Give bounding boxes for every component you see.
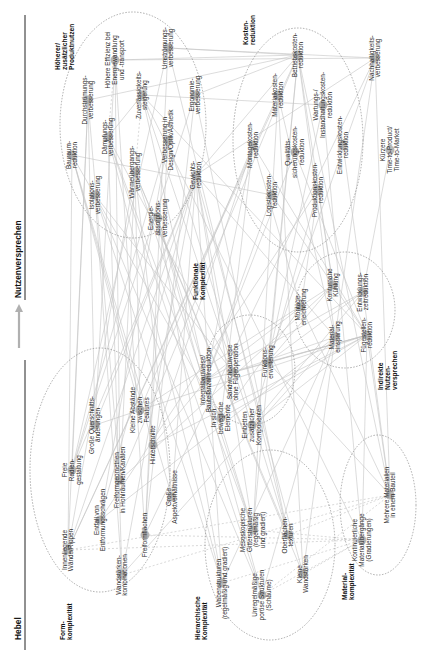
node-materialeinsparung[interactable]: Material-einsparung — [328, 321, 343, 353]
cluster-label-produktnutzen: Höherer/zusätzlicherProduktnutzen — [54, 24, 75, 70]
node-label: InnenliegendeWände/Rippen — [61, 528, 76, 571]
node-label: FreieRadien-gestaltung — [61, 455, 83, 485]
node-label: Montage-erleichterung — [294, 288, 309, 325]
node-label: Verbesserung inDesign/Optik/Ästhetik — [161, 109, 176, 171]
node-waben[interactable]: Wabenstrukturen(regelmäßig und gradiert) — [215, 547, 230, 619]
node-nachhaltigkeit[interactable]: Nachhaltigkeits-verbesserung — [368, 35, 383, 80]
edge-line — [375, 58, 390, 495]
arrow-head-icon — [15, 304, 23, 312]
edge-line — [268, 292, 363, 362]
edge-line — [88, 100, 95, 425]
node-montageerleichterung[interactable]: Montage-erleichterung — [294, 288, 309, 325]
node-wandstaerken[interactable]: Wandstärken-kombinationen — [115, 554, 129, 596]
node-entwicklungszeit[interactable]: Entwicklungs-zeitreduktion — [356, 272, 370, 311]
node-label: Fügestellen-reduktion — [360, 317, 374, 352]
edge-line — [142, 95, 323, 105]
node-ttm[interactable]: KürzereTime-to-Product/Time-to-Market — [379, 126, 400, 174]
node-isolation[interactable]: Isolations-verbesserung — [88, 175, 103, 214]
node-label: Betriebskosten-reduktion — [291, 33, 305, 77]
edge-line — [68, 155, 72, 550]
node-label: Entwicklungskosten-reduktion — [336, 116, 350, 174]
nutzenversprechen-title: Nutzenversprechen — [13, 220, 23, 298]
node-daempfung[interactable]: Dämpfungs-verbesserung — [101, 117, 116, 156]
edge-line — [72, 140, 168, 470]
cluster-label-kosten: Kosten-reduktion — [242, 15, 256, 45]
node-materialkosten[interactable]: Materialkosten-reduktion — [271, 73, 285, 117]
node-label: Entwicklungs-zeitreduktion — [356, 272, 370, 311]
node-integral[interactable]: Integralbauweise/Bauteilanzahlreduktion — [199, 347, 213, 412]
header-axis: Hebel Nutzenversprechen — [13, 15, 25, 650]
node-fuegestellen[interactable]: Fügestellen-reduktion — [360, 317, 374, 352]
node-label: Durchströmungs-verbesserung — [81, 75, 96, 124]
node-sandwich[interactable]: Sandwichbauweiseohne Fügeoperation — [226, 343, 241, 401]
node-label: MesoskopischeGitterstrukturen(regelmäßig… — [239, 508, 267, 552]
cluster-label-form: Form-komplexität — [59, 603, 74, 640]
node-gewicht[interactable]: Gewichts-reduktion — [189, 161, 203, 189]
node-freiformflaechen[interactable]: Freiformflächen — [141, 512, 150, 557]
node-label: Freiformgeometrienin Hohlräumen/Kanälen — [113, 446, 127, 513]
node-ergonomie[interactable]: Ergonomie-verbesserung — [188, 75, 203, 114]
node-einbetten[interactable]: EinbettenzusätzlicherKomponenten — [241, 405, 263, 445]
node-label: Materialkosten-reduktion — [271, 73, 285, 117]
node-label: Unregelmäßigeporöse Strukturen(Schäume) — [251, 569, 273, 620]
node-kontinuierlich[interactable]: KontinuierlicheMaterialübergänge(Gradier… — [351, 513, 373, 567]
benefit-lever-network-diagram: Bauraum-reduktionDurchströmungs-verbesse… — [0, 0, 426, 651]
dashed-edge-line — [288, 495, 390, 535]
cluster-label-hierarchisch: HierarchischeKomplexität — [194, 596, 209, 640]
node-funktionserweiterung[interactable]: Funktions-erweiterung — [261, 345, 276, 379]
node-label: Logistikkosten-reduktion — [265, 174, 279, 217]
node-entwicklungskosten[interactable]: Entwicklungskosten-reduktion — [336, 116, 350, 174]
node-wandrippen[interactable]: InnenliegendeWände/Rippen — [61, 528, 76, 571]
node-entfall[interactable]: Entfall vonEntformungsschrägen — [93, 488, 108, 551]
node-label: Höhere Effizienz beiEnergiewandlungund -… — [104, 31, 126, 88]
node-waermeuebergang[interactable]: Wärmeübergangs-verbesserung — [128, 146, 143, 199]
node-logistik[interactable]: Logistikkosten-reduktion — [265, 174, 279, 217]
node-label: Entfall vonEntformungsschrägen — [93, 488, 108, 551]
node-radien[interactable]: FreieRadien-gestaltung — [61, 455, 83, 485]
node-wartung[interactable]: Wartungs-/Instandhaltungskosten-reduktio… — [312, 72, 333, 138]
node-label: Nachhaltigkeits-verbesserung — [368, 35, 383, 80]
node-umstroemung[interactable]: Umströmungs-verbesserung — [161, 27, 176, 69]
node-bauraum[interactable]: Bauraum-reduktion — [65, 141, 79, 169]
node-gitter[interactable]: MesoskopischeGitterstrukturen(regelmäßig… — [239, 508, 267, 552]
node-mehrere[interactable]: Mehrere Materialienin einem Bauteil — [383, 466, 397, 523]
node-label: Material-einsparung — [328, 321, 343, 353]
node-effizienz[interactable]: Höhere Effizienz beiEnergiewandlungund -… — [104, 31, 126, 88]
node-label: Integralbauweise/Bauteilanzahlreduktion — [199, 347, 213, 412]
node-beweglich[interactable]: In sichbeweglicheElemente — [210, 402, 231, 434]
node-label: Mehrere Materialienin einem Bauteil — [383, 466, 397, 523]
node-label: GroßeAspektverhältnisse — [165, 470, 180, 524]
node-label: KürzereTime-to-Product/Time-to-Market — [379, 126, 400, 174]
edge-line — [253, 95, 278, 530]
node-label: Montagekosten-reduktion — [246, 122, 260, 168]
node-label: Hinterschnitte — [149, 425, 156, 465]
edge-line — [168, 48, 375, 58]
node-label: Wartungs-/Instandhaltungskosten-reduktio… — [312, 72, 333, 138]
node-label: Wärmeübergangs-verbesserung — [128, 146, 143, 199]
node-label: Isolations-verbesserung — [88, 175, 103, 214]
node-betriebskosten[interactable]: Betriebskosten-reduktion — [291, 33, 305, 77]
node-label: Ergonomie-verbesserung — [188, 75, 203, 114]
node-label: KontinuierlicheMaterialübergänge(Gradier… — [351, 513, 373, 567]
node-label: Wabenstrukturen(regelmäßig und gradiert) — [215, 547, 230, 619]
node-montagekosten[interactable]: Montagekosten-reduktion — [246, 122, 260, 168]
node-label: Bauraum-reduktion — [65, 141, 79, 169]
cluster-label-funktional: FunktionaleKomplexität — [192, 261, 207, 300]
node-freiformhohl[interactable]: Freiformgeometrienin Hohlräumen/Kanälen — [113, 446, 127, 513]
node-layer: Bauraum-reduktionDurchströmungs-verbesse… — [61, 27, 400, 620]
node-zuverlaessigkeit[interactable]: Zuverlässigkeits-steigerung — [135, 71, 150, 119]
node-label: Dämpfungs-verbesserung — [101, 117, 116, 156]
node-label: Zuverlässigkeits-steigerung — [135, 71, 150, 119]
node-durchstroemung[interactable]: Durchströmungs-verbesserung — [81, 75, 96, 124]
node-hinterschnitte[interactable]: Hinterschnitte — [149, 425, 158, 465]
node-querschnitt[interactable]: Große Querschnitts-änderungen — [88, 396, 103, 454]
node-label: In sichbeweglicheElemente — [210, 402, 231, 434]
node-poroes[interactable]: Unregelmäßigeporöse Strukturen(Schäume) — [251, 569, 273, 620]
node-label: Gewichts-reduktion — [189, 161, 203, 189]
node-design[interactable]: Verbesserung inDesign/Optik/Ästhetik — [161, 109, 176, 171]
node-label: EinbettenzusätzlicherKomponenten — [241, 405, 263, 445]
cluster-label-material: Material-komplexität — [341, 563, 356, 600]
node-label: Große Querschnitts-änderungen — [88, 396, 103, 454]
edge-line — [268, 335, 367, 362]
node-aspekt[interactable]: GroßeAspektverhältnisse — [165, 470, 180, 524]
